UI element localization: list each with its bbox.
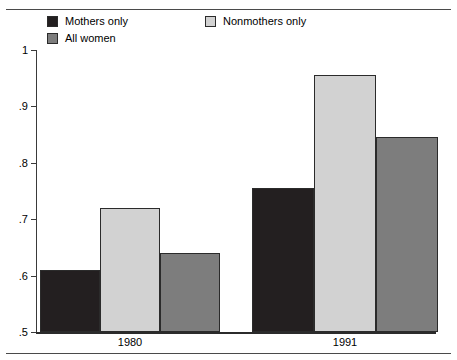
bar-1980-nonmothers-only bbox=[100, 208, 160, 332]
bar-1991-mothers-only bbox=[252, 188, 314, 332]
y-tick-label-0-9: .9 bbox=[19, 101, 28, 112]
x-axis-label-1991: 1991 bbox=[333, 337, 357, 348]
figure-container: Mothers only Nonmothers only All women 1… bbox=[0, 0, 457, 360]
y-tick-label-0-8: .8 bbox=[19, 157, 28, 168]
top-divider-rule bbox=[6, 9, 451, 10]
legend-item-nonmothers-only: Nonmothers only bbox=[205, 14, 306, 28]
y-tick-label-0-6: .6 bbox=[19, 270, 28, 281]
bar-1980-all-women bbox=[160, 253, 220, 332]
legend-item-all-women: All women bbox=[47, 31, 116, 45]
bar-1991-all-women bbox=[376, 137, 438, 332]
legend-swatch-nonmothers-only bbox=[205, 16, 216, 27]
legend-swatch-mothers-only bbox=[47, 16, 58, 27]
plot-area: 1 .9 .8 .7 .6 .5 1980 1 bbox=[36, 50, 436, 332]
bottom-divider-rule bbox=[6, 353, 451, 354]
y-axis-line bbox=[36, 50, 37, 332]
y-tick-label-0-5: .5 bbox=[19, 327, 28, 338]
chart-legend: Mothers only Nonmothers only All women bbox=[0, 13, 457, 49]
legend-label-nonmothers-only: Nonmothers only bbox=[223, 16, 306, 27]
x-axis-label-1980: 1980 bbox=[118, 337, 142, 348]
y-tick-label-1: 1 bbox=[22, 45, 28, 56]
legend-item-mothers-only: Mothers only bbox=[47, 14, 128, 28]
bar-1980-mothers-only bbox=[40, 270, 100, 332]
legend-swatch-all-women bbox=[47, 33, 58, 44]
y-tick-label-0-7: .7 bbox=[19, 214, 28, 225]
x-axis-baseline bbox=[36, 332, 436, 334]
bar-1991-nonmothers-only bbox=[314, 75, 376, 332]
legend-label-all-women: All women bbox=[65, 33, 116, 44]
legend-label-mothers-only: Mothers only bbox=[65, 16, 128, 27]
